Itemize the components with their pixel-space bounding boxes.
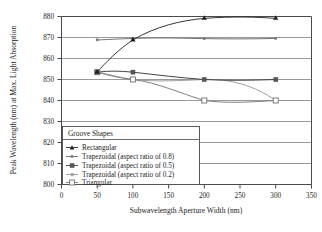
legend-title: Groove Shapes (68, 129, 113, 138)
legend-marker-dot-icon (71, 155, 74, 158)
xtick-label-200: 200 (199, 192, 210, 200)
ytick-label-860: 860 (43, 55, 54, 63)
x-axis-title: Subwavelength Aperture Width (nm) (130, 206, 243, 215)
chart-legend: Groove Shapes Rectangular Trapezoidal (a… (63, 127, 200, 188)
ytick-label-850: 850 (43, 76, 54, 84)
legend-item-trapezoidal-08[interactable]: Trapezoidal (aspect ratio of 0.8) (66, 153, 175, 161)
legend-label-rectangular: Rectangular (82, 144, 117, 152)
xtick-label-100: 100 (128, 192, 139, 200)
chart-canvas: 880 870 860 850 840 830 820 810 800 0 50 (0, 0, 322, 232)
ytick-label-840: 840 (43, 97, 54, 105)
ytick-label-800: 800 (43, 181, 54, 189)
xtick-label-150: 150 (163, 192, 174, 200)
xtick-label-50: 50 (94, 192, 102, 200)
legend-label-trapezoidal-02: Trapezoidal (aspect ratio of 0.2) (82, 171, 175, 179)
legend-label-trapezoidal-08: Trapezoidal (aspect ratio of 0.8) (82, 153, 175, 161)
legend-item-triangular[interactable]: Triangular (66, 179, 113, 187)
data-point (130, 77, 135, 82)
xtick-label-250: 250 (235, 192, 246, 200)
ytick-label-870: 870 (43, 34, 54, 42)
data-point (273, 77, 278, 82)
y-axis-ticks: 880 870 860 850 840 830 820 810 800 (43, 13, 61, 189)
ytick-label-830: 830 (43, 118, 54, 126)
data-point (202, 98, 207, 103)
data-point (202, 77, 207, 82)
chart-figure: 880 870 860 850 840 830 820 810 800 0 50 (0, 0, 322, 232)
xtick-label-300: 300 (270, 192, 281, 200)
legend-marker-light-dot-icon (71, 173, 74, 176)
xtick-label-350: 350 (306, 192, 317, 200)
ytick-label-810: 810 (43, 160, 54, 168)
data-point (203, 37, 206, 40)
xtick-label-0: 0 (60, 192, 64, 200)
legend-item-trapezoidal-02[interactable]: Trapezoidal (aspect ratio of 0.2) (66, 171, 175, 179)
legend-marker-square-icon (70, 163, 75, 168)
legend-marker-open-square-icon (70, 180, 75, 185)
y-axis-title: Peak Wavelength (nm) at Max. Light Absor… (9, 26, 18, 175)
ytick-label-820: 820 (43, 139, 54, 147)
data-point (96, 39, 99, 42)
data-point (131, 70, 136, 75)
data-point (273, 98, 278, 103)
legend-label-trapezoidal-05: Trapezoidal (aspect ratio of 0.5) (82, 162, 175, 170)
ytick-label-880: 880 (43, 13, 54, 21)
data-point (274, 37, 277, 40)
legend-label-triangular: Triangular (82, 179, 113, 187)
legend-item-trapezoidal-05[interactable]: Trapezoidal (aspect ratio of 0.5) (66, 162, 175, 170)
